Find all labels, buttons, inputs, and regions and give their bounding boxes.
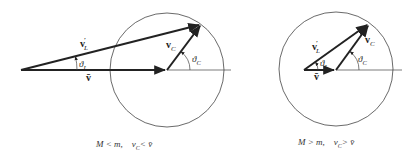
left-v-c-label: vC	[166, 39, 176, 53]
right-v-bar-label: v̄	[314, 71, 319, 82]
left-caption: M < m, vC< v̄	[96, 139, 152, 151]
left-caption-mass-condition: M < m,	[96, 139, 123, 149]
right-v-c-label: vC	[365, 34, 375, 48]
right-caption: M > m, vC> v̄	[298, 137, 354, 149]
right-caption-mass-condition: M > m,	[298, 137, 325, 147]
left-theta-l-arc	[75, 57, 77, 71]
left-theta-l-label: ϑL	[79, 59, 87, 71]
right-theta-l-arc	[315, 62, 318, 70]
left-v-l-prime-label: v′L	[80, 36, 88, 52]
right-theta-c-label: ϑC	[358, 54, 367, 66]
right-v-l-prime-label: v′L	[312, 39, 320, 55]
left-caption-velocity-condition: vC< v̄	[132, 139, 152, 149]
left-diagram: v′L ϑL v̄ vC ϑC	[21, 13, 231, 127]
right-theta-l-label: ϑL	[320, 58, 328, 70]
left-theta-c-label: ϑC	[192, 54, 201, 66]
right-diagram: v′L ϑL v̄ vC ϑC	[279, 12, 402, 126]
left-v-bar-label: v̄	[86, 72, 91, 83]
left-theta-c-arc	[181, 52, 190, 70]
right-caption-velocity-condition: vC> v̄	[334, 137, 354, 147]
